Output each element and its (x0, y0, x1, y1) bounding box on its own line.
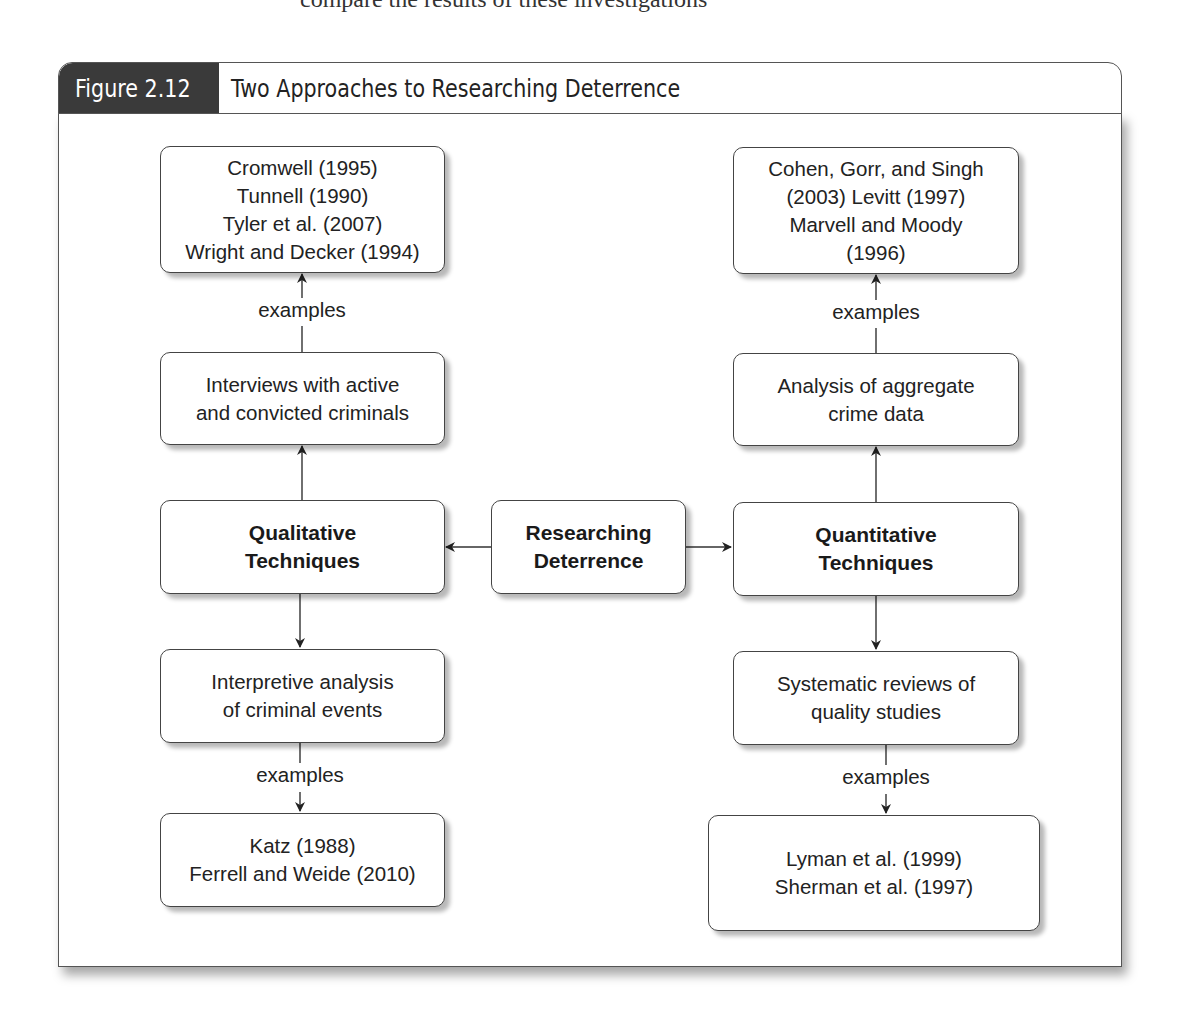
figure-title-text: Two Approaches to Researching Deterrence (231, 63, 680, 114)
node-text: Cromwell (1995) Tunnell (1990) Tyler et … (185, 154, 419, 266)
node-aggregate-analysis: Analysis of aggregate crime data (733, 353, 1019, 446)
edge-label-examples: examples (838, 765, 934, 789)
edge-label-examples: examples (254, 298, 350, 322)
node-researching-deterrence: Researching Deterrence (491, 500, 686, 594)
edge-label-examples: examples (252, 763, 348, 787)
node-text: Interpretive analysis of criminal events (211, 668, 393, 724)
node-text: Lyman et al. (1999) Sherman et al. (1997… (775, 845, 973, 901)
edge-label-examples: examples (828, 300, 924, 324)
node-text: Systematic reviews of quality studies (777, 670, 975, 726)
node-refs-systematic: Lyman et al. (1999) Sherman et al. (1997… (708, 815, 1040, 931)
node-refs-interviews: Cromwell (1995) Tunnell (1990) Tyler et … (160, 146, 445, 273)
node-interviews: Interviews with active and convicted cri… (160, 352, 445, 445)
node-interpretive-analysis: Interpretive analysis of criminal events (160, 649, 445, 743)
figure-number: Figure 2.12 (75, 63, 191, 114)
figure-number-tab: Figure 2.12 (59, 63, 219, 113)
node-qualitative-techniques: Qualitative Techniques (160, 500, 445, 594)
node-refs-interpretive: Katz (1988) Ferrell and Weide (2010) (160, 813, 445, 907)
figure-title: Two Approaches to Researching Deterrence (231, 63, 753, 113)
node-text: Cohen, Gorr, and Singh (2003) Levitt (19… (768, 155, 983, 267)
node-text: Interviews with active and convicted cri… (196, 371, 409, 427)
node-quantitative-techniques: Quantitative Techniques (733, 502, 1019, 596)
figure-header: Figure 2.12 Two Approaches to Researchin… (58, 62, 1122, 114)
node-refs-aggregate: Cohen, Gorr, and Singh (2003) Levitt (19… (733, 147, 1019, 274)
node-text: Quantitative Techniques (815, 521, 936, 577)
node-text: Researching Deterrence (525, 519, 651, 575)
node-text: Qualitative Techniques (245, 519, 360, 575)
node-text: Analysis of aggregate crime data (777, 372, 974, 428)
node-systematic-reviews: Systematic reviews of quality studies (733, 651, 1019, 745)
node-text: Katz (1988) Ferrell and Weide (2010) (189, 832, 415, 888)
page-text-fragment: compare the results of these investigati… (300, 0, 707, 13)
